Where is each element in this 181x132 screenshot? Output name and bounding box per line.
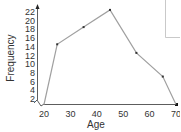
data-point-marker: [109, 9, 111, 11]
y-tick-label: 14: [25, 42, 35, 52]
data-point-marker: [56, 43, 58, 45]
x-tick-label: 30: [65, 109, 75, 119]
data-point-marker: [83, 26, 85, 28]
y-axis-arrow-icon: [36, 4, 40, 9]
frequency-polygon-chart: 246810121416182022 203040506070 Frequenc…: [0, 0, 180, 132]
x-tick-label: 40: [92, 109, 102, 119]
axis-break-icon: [34, 100, 44, 106]
y-tick-label: 18: [25, 24, 35, 34]
y-tick-label: 22: [25, 7, 35, 17]
y-tick-label: 6: [30, 77, 35, 87]
y-tick-labels: 246810121416182022: [25, 7, 35, 104]
y-tick-label: 4: [30, 85, 35, 95]
y-tick-label: 10: [25, 59, 35, 69]
series-line: [44, 10, 176, 105]
y-tick-label: 16: [25, 33, 35, 43]
data-point-marker: [135, 52, 137, 54]
data-point-marker: [162, 76, 164, 78]
x-tick-label: 60: [145, 109, 155, 119]
y-axis-label: Frequency: [5, 34, 16, 81]
x-axis-label: Age: [87, 119, 105, 130]
y-tick-label: 8: [30, 68, 35, 78]
x-tick-label: 50: [118, 109, 128, 119]
y-tick-label: 20: [25, 16, 35, 26]
x-tick-labels: 203040506070: [39, 109, 180, 119]
data-markers: [56, 9, 164, 78]
x-tick-label: 70: [171, 109, 180, 119]
x-tick-label: 20: [39, 109, 49, 119]
y-tick-label: 2: [30, 94, 35, 104]
corner-box: [166, 0, 181, 38]
y-tick-label: 12: [25, 51, 35, 61]
